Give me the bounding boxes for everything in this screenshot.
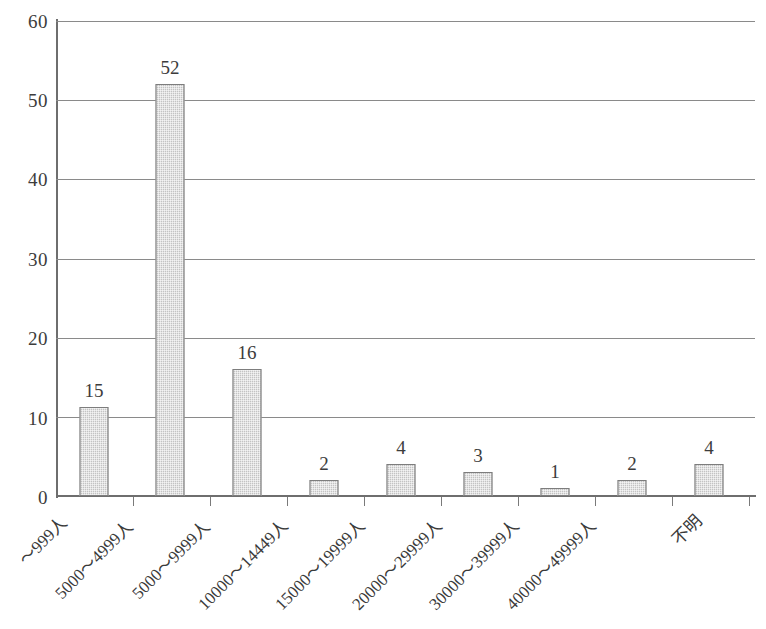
bar-slot-3: 16	[211, 21, 283, 496]
bar-5[interactable]	[387, 464, 416, 496]
bar-slot-8: 2	[596, 21, 668, 496]
bar-value-1: 15	[85, 381, 104, 400]
y-tick-label-10: 10	[8, 409, 48, 428]
bar-8[interactable]	[618, 480, 647, 496]
x-label-9: 不明	[669, 512, 705, 548]
x-label-3: 5000〜9999人	[129, 518, 213, 602]
bar-slot-2: 52	[134, 21, 206, 496]
bars-layer: 15 52 16 2 4 3	[56, 21, 755, 496]
bar-slot-1: 15	[58, 21, 130, 496]
y-tick-label-50: 50	[8, 91, 48, 110]
bar-value-4: 2	[319, 454, 329, 473]
x-axis-labels: 〜999人 5000〜4999人 5000〜9999人 10000〜14449人…	[0, 500, 766, 629]
bar-slot-7: 1	[519, 21, 591, 496]
bar-slot-4: 2	[288, 21, 360, 496]
bar-3[interactable]	[233, 369, 262, 496]
bar-4[interactable]	[310, 480, 339, 496]
y-tick-label-60: 60	[8, 12, 48, 31]
bar-value-7: 1	[550, 462, 560, 481]
bar-value-5: 4	[396, 438, 406, 457]
bar-slot-9: 4	[673, 21, 745, 496]
bar-1[interactable]	[80, 407, 109, 496]
bar-value-6: 3	[473, 446, 483, 465]
y-tick-label-30: 30	[8, 250, 48, 269]
bar-value-8: 2	[627, 454, 637, 473]
bar-2[interactable]	[156, 84, 185, 496]
plot-area: 15 52 16 2 4 3	[56, 21, 755, 496]
bar-slot-6: 3	[442, 21, 514, 496]
bar-chart: 60 50 40 30 20 10 0 15 52 16	[0, 0, 766, 629]
y-tick-label-20: 20	[8, 329, 48, 348]
y-tick-label-40: 40	[8, 170, 48, 189]
bar-7[interactable]	[541, 488, 570, 496]
x-label-1: 〜999人	[16, 514, 70, 568]
bar-value-3: 16	[238, 343, 257, 362]
bar-value-9: 4	[704, 438, 714, 457]
bar-6[interactable]	[464, 472, 493, 496]
bar-slot-5: 4	[365, 21, 437, 496]
bar-9[interactable]	[695, 464, 724, 496]
bar-value-2: 52	[161, 58, 180, 77]
